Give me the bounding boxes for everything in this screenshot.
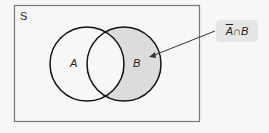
set-b: B — [241, 25, 248, 37]
complement-a: A — [226, 25, 233, 37]
intersection-symbol: ∩ — [233, 25, 241, 37]
callout-arrow — [152, 31, 215, 56]
set-a-label: A — [70, 57, 77, 69]
set-b-label: B — [133, 57, 140, 69]
callout-label: A ∩ B — [216, 20, 258, 42]
universe-label: S — [20, 10, 27, 22]
